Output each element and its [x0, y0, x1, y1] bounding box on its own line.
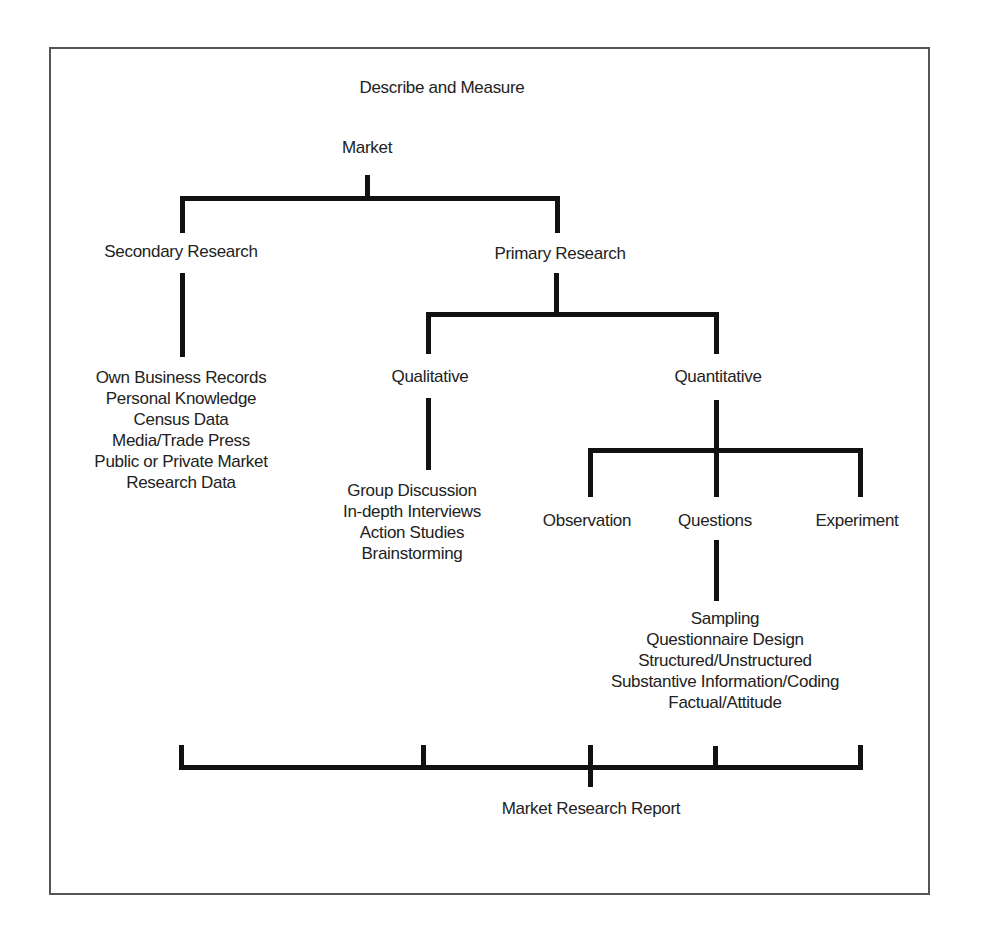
- list-item: Structured/Unstructured: [611, 650, 839, 671]
- connector-primary-bar: [426, 312, 719, 317]
- connector-questions-stem: [714, 540, 719, 601]
- questions-list: Sampling Questionnaire Design Structured…: [611, 608, 839, 713]
- connector-secondary-stem: [180, 273, 185, 357]
- list-item: In-depth Interviews: [343, 501, 481, 522]
- connector-primary-drop: [555, 196, 560, 233]
- connector-report-bar: [179, 765, 863, 770]
- connector-report-stem: [588, 745, 593, 787]
- connector-market-bar: [180, 196, 560, 201]
- list-item: Personal Knowledge: [94, 388, 267, 409]
- qualitative-list: Group Discussion In-depth Interviews Act…: [343, 480, 481, 564]
- connector-experiment-drop: [858, 448, 863, 497]
- node-market: Market: [342, 137, 392, 158]
- connector-report-tick-questions: [713, 746, 718, 770]
- connector-report-tick-qualitative: [421, 745, 426, 770]
- list-item: Census Data: [94, 409, 267, 430]
- node-questions: Questions: [678, 510, 752, 531]
- connector-primary-stem: [554, 273, 559, 315]
- list-item: Own Business Records: [94, 367, 267, 388]
- connector-qualitative-drop: [426, 312, 431, 354]
- list-item: Public or Private Market: [94, 451, 267, 472]
- connector-observation-drop: [588, 448, 593, 497]
- list-item: Action Studies: [343, 522, 481, 543]
- node-quantitative: Quantitative: [674, 366, 761, 387]
- connector-quantitative-bar: [588, 448, 863, 453]
- node-market-research-report: Market Research Report: [502, 798, 681, 819]
- connector-qualitative-stem: [426, 398, 431, 470]
- list-item: Research Data: [94, 472, 267, 493]
- list-item: Factual/Attitude: [611, 692, 839, 713]
- connector-report-tick-experiment: [858, 745, 863, 770]
- connector-secondary-drop: [180, 196, 185, 233]
- connector-quantitative-drop: [714, 312, 719, 354]
- node-secondary-research: Secondary Research: [104, 241, 257, 262]
- node-qualitative: Qualitative: [391, 366, 468, 387]
- list-item: Group Discussion: [343, 480, 481, 501]
- list-item: Media/Trade Press: [94, 430, 267, 451]
- list-item: Substantive Information/Coding: [611, 671, 839, 692]
- connector-report-tick-secondary: [179, 745, 184, 770]
- node-experiment: Experiment: [816, 510, 899, 531]
- node-primary-research: Primary Research: [494, 243, 625, 264]
- list-item: Brainstorming: [343, 543, 481, 564]
- list-item: Questionnaire Design: [611, 629, 839, 650]
- list-item: Sampling: [611, 608, 839, 629]
- node-observation: Observation: [543, 510, 631, 531]
- diagram-title: Describe and Measure: [359, 77, 524, 98]
- secondary-research-list: Own Business Records Personal Knowledge …: [94, 367, 267, 493]
